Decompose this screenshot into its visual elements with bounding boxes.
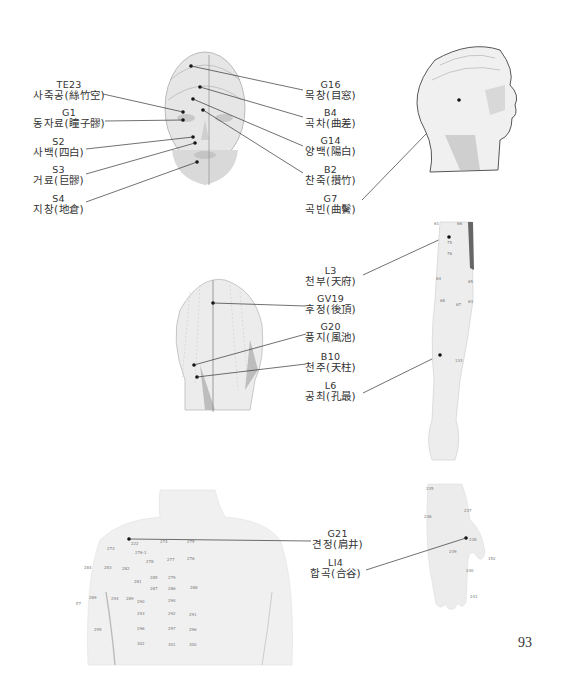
point-name: 공최(孔最) — [305, 391, 356, 402]
hand-figure: 235 236 237 238 239 152 240 241 — [424, 484, 496, 609]
svg-text:237: 237 — [464, 508, 472, 513]
label-g14: G14 양백(陽白) — [305, 136, 356, 157]
svg-text:290: 290 — [168, 598, 176, 603]
svg-text:279: 279 — [168, 575, 176, 580]
svg-text:63: 63 — [468, 299, 474, 304]
svg-text:66: 66 — [457, 221, 463, 226]
svg-text:291: 291 — [189, 612, 197, 617]
label-g7: G7 곡빈(曲鬢) — [305, 194, 356, 215]
label-g16: G16 목창(目窓) — [305, 80, 356, 101]
svg-text:281: 281 — [134, 579, 142, 584]
point-name: 양백(陽白) — [305, 146, 356, 157]
label-li4: LI4 합곡(合谷) — [310, 558, 361, 579]
label-s3: S3 거료(巨髎) — [33, 165, 84, 186]
svg-text:287: 287 — [150, 586, 158, 591]
svg-text:75: 75 — [447, 240, 453, 245]
side-head-figure — [417, 47, 517, 172]
point-name: 곡빈(曲鬢) — [305, 204, 356, 215]
svg-text:235: 235 — [426, 486, 434, 491]
label-g20: G20 풍지(風池) — [305, 322, 356, 343]
label-l6: L6 공최(孔最) — [305, 381, 356, 402]
page-number: 93 — [518, 635, 532, 651]
label-g1: G1 동자료(瞳子髎) — [33, 108, 105, 129]
point-name: 목창(目窓) — [305, 90, 356, 101]
svg-text:301: 301 — [168, 642, 176, 647]
label-gv19: GV19 후정(後頂) — [305, 294, 356, 315]
svg-text:152: 152 — [488, 556, 496, 561]
svg-text:241: 241 — [470, 594, 478, 599]
point-name: 천주(天柱) — [305, 362, 356, 373]
svg-text:296: 296 — [137, 626, 145, 631]
point-name: 동자료(瞳子髎) — [33, 118, 105, 129]
point-name: 사죽공(絲竹空) — [33, 90, 105, 101]
svg-text:277: 277 — [167, 557, 175, 562]
svg-text:289: 289 — [89, 595, 97, 600]
svg-text:133: 133 — [455, 358, 463, 363]
point-name: 견정(肩井) — [312, 539, 363, 550]
svg-text:286: 286 — [168, 586, 176, 591]
svg-text:276-1: 276-1 — [135, 550, 147, 555]
svg-text:E7: E7 — [76, 601, 82, 606]
label-s2: S2 사백(四白) — [33, 137, 84, 158]
face-front-figure — [165, 52, 245, 185]
point-name: 곡차(曲差) — [305, 118, 356, 129]
point-name: 풍지(風池) — [305, 332, 356, 343]
svg-text:295: 295 — [94, 627, 102, 632]
svg-text:76: 76 — [447, 251, 453, 256]
svg-text:273: 273 — [107, 546, 115, 551]
arm-figure: 61 66 75 76 64 65 68 67 63 133 — [429, 221, 475, 460]
point-name: 찬죽(攢竹) — [305, 175, 356, 186]
label-l3: L3 천부(天府) — [305, 266, 356, 287]
svg-text:282: 282 — [122, 566, 130, 571]
label-g21: G21 견정(肩井) — [312, 529, 363, 550]
svg-text:278: 278 — [146, 559, 154, 564]
svg-text:283: 283 — [104, 565, 112, 570]
svg-text:285: 285 — [150, 575, 158, 580]
svg-text:276: 276 — [187, 556, 195, 561]
svg-text:296: 296 — [189, 627, 197, 632]
label-te23: TE23 사죽공(絲竹空) — [33, 80, 105, 101]
svg-text:288: 288 — [190, 585, 198, 590]
svg-text:68: 68 — [440, 298, 446, 303]
svg-text:292: 292 — [168, 611, 176, 616]
point-name: 후정(後頂) — [305, 304, 356, 315]
svg-text:239: 239 — [449, 549, 457, 554]
svg-text:61: 61 — [434, 221, 440, 226]
point-name: 천부(天府) — [305, 276, 356, 287]
svg-text:64: 64 — [436, 276, 442, 281]
back-head-figure — [176, 279, 263, 412]
point-name: 사백(四白) — [33, 147, 84, 158]
svg-text:240: 240 — [466, 568, 474, 573]
label-b2: B2 찬죽(攢竹) — [305, 165, 356, 186]
svg-text:297: 297 — [168, 626, 176, 631]
svg-text:67: 67 — [456, 302, 462, 307]
svg-text:300: 300 — [189, 642, 197, 647]
svg-text:284: 284 — [84, 565, 92, 570]
svg-text:290: 290 — [137, 599, 145, 604]
svg-text:289: 289 — [126, 596, 134, 601]
point-name: 지창(地倉) — [33, 204, 84, 215]
label-b10: B10 천주(天柱) — [305, 352, 356, 373]
point-name: 거료(巨髎) — [33, 175, 84, 186]
illustration-canvas: 61 66 75 76 64 65 68 67 63 133 222 274 2… — [0, 0, 569, 687]
label-s4: S4 지창(地倉) — [33, 194, 84, 215]
svg-text:302: 302 — [137, 641, 145, 646]
svg-text:222: 222 — [131, 541, 139, 546]
svg-text:238: 238 — [469, 537, 477, 542]
label-b4: B4 곡차(曲差) — [305, 108, 356, 129]
point-name: 합곡(合谷) — [310, 568, 361, 579]
svg-text:293: 293 — [137, 611, 145, 616]
back-figure: 222 274 275 273 276-1 278 277 276 284 28… — [76, 490, 293, 665]
svg-text:294: 294 — [111, 596, 119, 601]
svg-text:236: 236 — [424, 514, 432, 519]
svg-text:65: 65 — [468, 279, 474, 284]
